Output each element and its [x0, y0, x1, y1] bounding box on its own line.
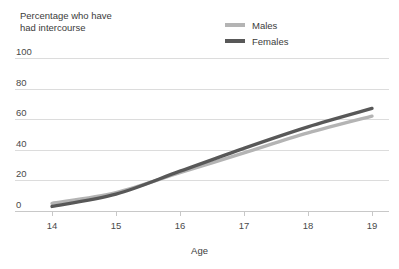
plot-area: 020406080100 141516171819	[0, 0, 399, 269]
x-axis-title: Age	[0, 245, 399, 256]
series-line-females	[52, 108, 372, 206]
chart-container: Percentage who have had intercourse Male…	[0, 0, 399, 269]
series-lines	[0, 0, 399, 269]
